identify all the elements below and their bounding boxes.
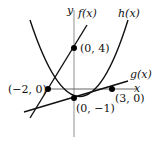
- label-point-0-4: (0, 4): [80, 42, 110, 55]
- point-0-neg1: [71, 95, 77, 101]
- label-point-0-neg1: (0, −1): [76, 102, 115, 115]
- label-point-3-0: (3, 0): [115, 92, 145, 105]
- function-graph: y x f(x) h(x) g(x) (0, 4) (−2, 0) (3, 0)…: [0, 0, 161, 145]
- label-f: f(x): [77, 7, 97, 20]
- y-axis-label: y: [66, 4, 74, 17]
- label-g: g(x): [130, 68, 152, 81]
- label-point-neg2-0: (−2, 0): [8, 83, 47, 96]
- label-h: h(x): [118, 7, 140, 20]
- point-0-4: [71, 45, 77, 51]
